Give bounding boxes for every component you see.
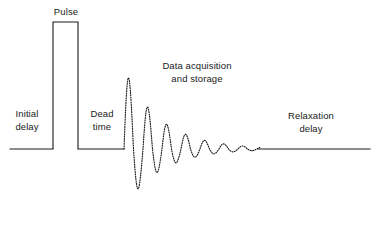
dead-time-label: Dead time [80, 108, 124, 133]
pulse-sequence-diagram: Pulse Initial delay Dead time Data acqui… [0, 0, 384, 232]
relaxation-delay-label: Relaxation delay [276, 110, 346, 135]
data-acquisition-label: Data acquisition and storage [146, 60, 248, 85]
pulse-label: Pulse [36, 6, 96, 19]
fid-signal-trace [124, 78, 260, 189]
initial-delay-label: Initial delay [2, 108, 52, 133]
pulse-rectangle [53, 22, 78, 149]
